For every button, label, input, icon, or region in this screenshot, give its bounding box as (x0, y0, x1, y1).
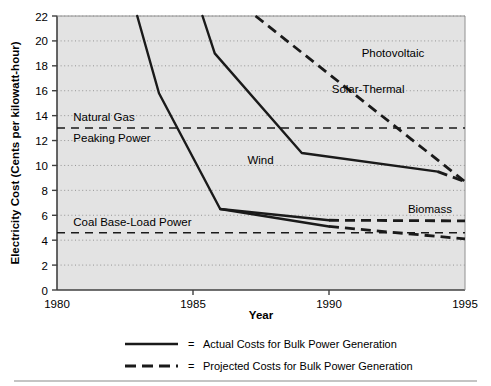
series-label-natural-gas-peaking-power-line1: Natural Gas (73, 111, 135, 123)
legend-equals-projected: = (188, 360, 194, 372)
y-tick-label-0: 0 (42, 285, 48, 297)
x-tick-label-1995: 1995 (452, 298, 478, 310)
y-tick-label-18: 18 (35, 60, 48, 72)
y-tick-label-14: 14 (35, 110, 48, 122)
y-tick-label-12: 12 (35, 135, 48, 147)
chart-canvas: 0246810121416182022 1980198519901995 Win… (0, 0, 491, 386)
series-label-photovoltaic: Photovoltaic (362, 47, 425, 59)
y-tick-label-22: 22 (35, 11, 48, 23)
y-tick-label-6: 6 (42, 210, 48, 222)
x-tick-label-1990: 1990 (316, 298, 342, 310)
series-label-coal-base-load-power: Coal Base-Load Power (73, 216, 191, 228)
y-tick-label-16: 16 (35, 85, 48, 97)
series-label-biomass: Biomass (408, 203, 452, 215)
x-tick-label-1980: 1980 (44, 298, 70, 310)
series-projected-biomass (329, 220, 465, 221)
legend-equals-actual: = (188, 338, 194, 350)
series-label-wind: Wind (247, 154, 273, 166)
y-tick-label-10: 10 (35, 160, 48, 172)
series-label-solar-thermal: Solar-Thermal (332, 83, 405, 95)
legend-label-projected: Projected Costs for Bulk Power Generatio… (203, 360, 413, 372)
x-axis-title: Year (249, 309, 274, 321)
y-tick-label-8: 8 (42, 185, 48, 197)
series-label-natural-gas-peaking-power-line2: Peaking Power (73, 132, 151, 144)
y-tick-label-2: 2 (42, 260, 48, 272)
x-tick-label-1985: 1985 (180, 298, 206, 310)
y-axis-title: Electricity Cost (Cents per kilowatt-hou… (9, 41, 21, 264)
legend-label-actual: Actual Costs for Bulk Power Generation (203, 338, 397, 350)
figure-container: 0246810121416182022 1980198519901995 Win… (0, 0, 491, 386)
y-tick-label-4: 4 (42, 235, 49, 247)
y-tick-label-20: 20 (35, 35, 48, 47)
